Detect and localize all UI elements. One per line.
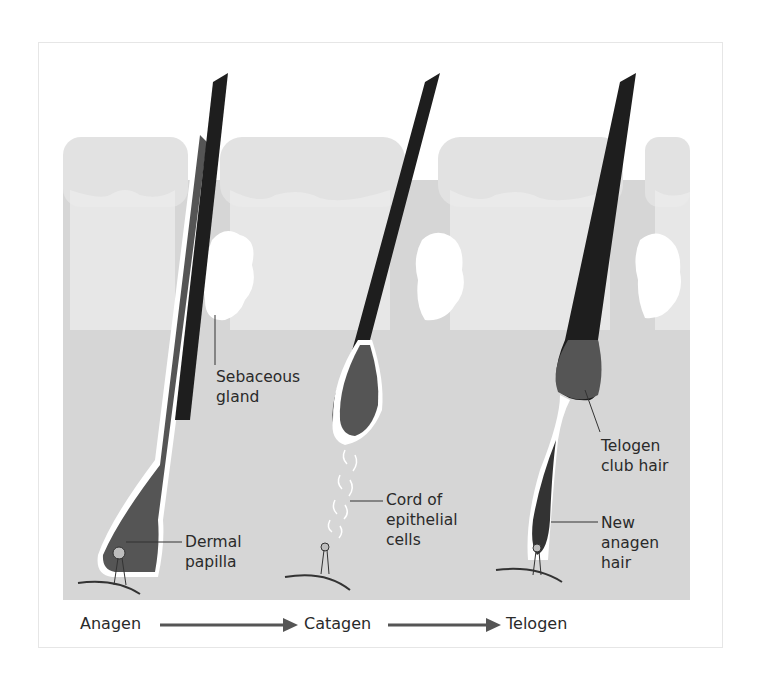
label-cord-epithelial-cells: Cord of epithelial cells [386,490,458,550]
stage-telogen: Telogen [506,614,567,633]
label-sebaceous-gland: Sebaceous gland [216,367,300,407]
label-dermal-papilla: Dermal papilla [185,532,241,572]
label-new-anagen-hair: New anagen hair [601,513,659,573]
stage-catagen: Catagen [304,614,371,633]
stage-anagen: Anagen [80,614,141,633]
label-telogen-club-hair: Telogen club hair [601,436,668,476]
hair-cycle-illustration [0,0,775,697]
